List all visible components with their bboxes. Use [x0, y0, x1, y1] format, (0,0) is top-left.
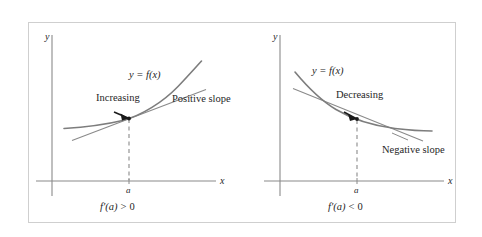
increasing-label: Increasing [96, 93, 140, 104]
caption-right-expression: f′(a) [328, 201, 345, 212]
decreasing-label: Decreasing [336, 90, 383, 101]
caption-left-expression: f′(a) [100, 201, 117, 212]
caption-right-value: 0 [357, 201, 362, 212]
figure-border [29, 23, 456, 223]
y-axis-label-left: y [45, 32, 49, 42]
x-tick-label-a-right: a [354, 186, 359, 195]
function-label-left: y = f(x) [129, 70, 161, 81]
y-axis-label-right: y [273, 32, 277, 42]
caption-left-relation: > [117, 201, 129, 212]
caption-right: f′(a)<0 [328, 202, 363, 213]
x-axis-label-right: x [448, 176, 452, 186]
positive-slope-label: Positive slope [172, 94, 231, 105]
x-axis-label-left: x [220, 176, 224, 186]
negative-slope-label: Negative slope [382, 145, 445, 156]
caption-right-relation: < [345, 201, 357, 212]
caption-left: f′(a)>0 [100, 202, 135, 213]
function-label-right: y = f(x) [312, 66, 344, 77]
calculus-derivative-sign-figure: y x y = f(x) Increasing Positive slope a… [0, 0, 482, 237]
caption-left-value: 0 [129, 201, 134, 212]
figure-canvas [0, 0, 482, 237]
x-tick-label-a-left: a [126, 186, 131, 195]
